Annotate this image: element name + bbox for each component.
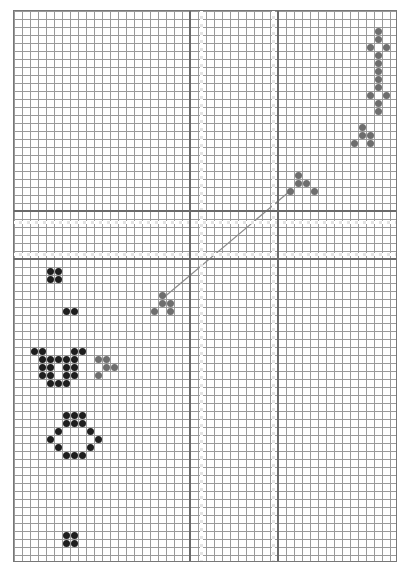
cell-cluster-left[interactable] [39,348,46,355]
cell-ring-left[interactable] [63,412,70,419]
cell-glider-mid-left[interactable] [167,300,174,307]
cell-pentadecathlon[interactable] [375,28,382,35]
major-grid-line-vertical [189,11,191,561]
cell-ring-left[interactable] [95,436,102,443]
cell-glider-mid-right[interactable] [287,188,294,195]
cell-block-upper-left[interactable] [47,276,54,283]
cell-ring-left[interactable] [87,444,94,451]
cell-ring-left[interactable] [63,420,70,427]
cell-cluster-left[interactable] [71,348,78,355]
cell-block-upper-left[interactable] [55,268,62,275]
cell-cluster-left[interactable] [47,380,54,387]
cell-glider-mid-left[interactable] [159,300,166,307]
cell-ring-left[interactable] [79,452,86,459]
cell-cluster-left[interactable] [39,356,46,363]
cell-ring-left[interactable] [63,452,70,459]
cell-glider-top-right[interactable] [351,140,358,147]
cell-cluster-left[interactable] [71,364,78,371]
cell-block-bottom-left[interactable] [63,540,70,547]
cell-pentadecathlon[interactable] [375,36,382,43]
cell-pentadecathlon[interactable] [375,84,382,91]
cell-pentadecathlon[interactable] [375,52,382,59]
cell-glider-top-right[interactable] [367,140,374,147]
cell-glider-left[interactable] [95,356,102,363]
region-gap-vertical [200,11,203,561]
cell-pentadecathlon[interactable] [375,68,382,75]
cell-ring-left[interactable] [79,412,86,419]
cell-cluster-left[interactable] [39,364,46,371]
cell-cluster-left[interactable] [71,372,78,379]
cell-glider-left[interactable] [111,364,118,371]
cell-glider-left[interactable] [95,372,102,379]
cell-glider-mid-right[interactable] [311,188,318,195]
cell-glider-mid-right[interactable] [295,172,302,179]
cell-ring-left[interactable] [55,428,62,435]
cell-pair-left[interactable] [71,308,78,315]
cell-glider-mid-left[interactable] [167,308,174,315]
cell-glider-top-right[interactable] [359,132,366,139]
glider-trajectory-line [14,11,398,563]
cell-block-bottom-left[interactable] [71,532,78,539]
cell-glider-mid-right[interactable] [303,180,310,187]
cell-cluster-left[interactable] [47,372,54,379]
cell-glider-left[interactable] [103,356,110,363]
cell-pentadecathlon[interactable] [383,44,390,51]
region-gap-horizontal [14,221,396,224]
cell-glider-top-right[interactable] [367,132,374,139]
cell-ring-left[interactable] [71,412,78,419]
cell-cluster-left[interactable] [47,364,54,371]
cell-glider-mid-left[interactable] [159,292,166,299]
region-gap-horizontal [14,253,396,256]
cell-block-upper-left[interactable] [47,268,54,275]
cell-cluster-left[interactable] [79,348,86,355]
cell-pentadecathlon[interactable] [375,108,382,115]
cell-cluster-left[interactable] [55,380,62,387]
cell-block-bottom-left[interactable] [71,540,78,547]
cell-cluster-left[interactable] [31,348,38,355]
cell-cluster-left[interactable] [39,372,46,379]
cell-ring-left[interactable] [55,444,62,451]
cell-ring-left[interactable] [71,420,78,427]
cell-pentadecathlon[interactable] [375,100,382,107]
region-gap-vertical [272,11,275,561]
cell-glider-mid-left[interactable] [151,308,158,315]
cell-cluster-left[interactable] [47,356,54,363]
cell-cluster-left[interactable] [63,364,70,371]
cell-glider-top-right[interactable] [359,124,366,131]
cell-ring-left[interactable] [79,420,86,427]
cell-pentadecathlon[interactable] [375,60,382,67]
cell-cluster-left[interactable] [63,356,70,363]
cell-pentadecathlon[interactable] [383,92,390,99]
cell-cluster-left[interactable] [71,356,78,363]
cell-cluster-left[interactable] [55,356,62,363]
cell-cluster-left[interactable] [63,372,70,379]
cell-pentadecathlon[interactable] [367,44,374,51]
cell-glider-mid-right[interactable] [295,180,302,187]
major-grid-line-horizontal [14,258,396,260]
cell-pentadecathlon[interactable] [367,92,374,99]
cell-ring-left[interactable] [47,436,54,443]
major-grid-line-vertical [277,11,279,561]
cell-glider-left[interactable] [103,364,110,371]
major-grid-line-horizontal [14,210,396,212]
cell-pentadecathlon[interactable] [375,76,382,83]
cell-ring-left[interactable] [87,428,94,435]
cell-ring-left[interactable] [71,452,78,459]
life-board[interactable] [13,10,397,562]
cell-block-upper-left[interactable] [55,276,62,283]
cell-cluster-left[interactable] [63,380,70,387]
cell-block-bottom-left[interactable] [63,532,70,539]
cell-pair-left[interactable] [63,308,70,315]
